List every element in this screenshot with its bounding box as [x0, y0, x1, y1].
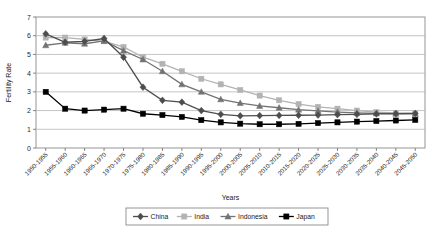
marker-square — [179, 114, 184, 119]
marker-square — [82, 108, 87, 113]
marker-square — [43, 89, 48, 94]
marker-square — [296, 101, 301, 106]
marker-square — [335, 120, 340, 125]
legend-item-indonesia[interactable]: Indonesia — [221, 213, 268, 220]
ytick-label: 2 — [27, 107, 31, 114]
marker-square — [277, 122, 282, 127]
marker-square — [284, 214, 289, 219]
plot-area-border — [36, 17, 425, 148]
marker-square — [218, 82, 223, 87]
marker-square — [393, 118, 398, 123]
legend-label: India — [194, 213, 209, 220]
chart-legend: ChinaIndiaIndonesiaJapan — [126, 208, 328, 225]
ytick-label: 7 — [27, 14, 31, 21]
marker-square — [354, 119, 359, 124]
ytick-label: 3 — [27, 88, 31, 95]
marker-square — [296, 121, 301, 126]
ytick-label: 5 — [27, 51, 31, 58]
marker-square — [315, 121, 320, 126]
marker-square — [238, 87, 243, 92]
marker-square — [182, 214, 187, 219]
marker-square — [218, 120, 223, 125]
ytick-label: 1 — [27, 126, 31, 133]
marker-square — [101, 107, 106, 112]
fertility-rate-line-chart: 012345671950-19551955-19601960-19651965-… — [0, 0, 441, 237]
marker-square — [179, 69, 184, 74]
marker-square — [257, 122, 262, 127]
x-axis-title: Years — [222, 194, 240, 201]
marker-square — [199, 76, 204, 81]
ytick-label: 0 — [27, 145, 31, 152]
chart-canvas: 012345671950-19551955-19601960-19651965-… — [0, 0, 441, 237]
y-axis-title: Fertility Rate — [5, 63, 13, 102]
marker-square — [121, 106, 126, 111]
ytick-label: 4 — [27, 70, 31, 77]
marker-square — [199, 118, 204, 123]
legend-label: Indonesia — [238, 213, 268, 220]
ytick-label: 6 — [27, 32, 31, 39]
marker-square — [140, 111, 145, 116]
marker-square — [277, 98, 282, 103]
legend-label: Japan — [296, 213, 315, 221]
marker-square — [160, 112, 165, 117]
marker-square — [160, 61, 165, 66]
legend-label: China — [151, 213, 169, 220]
marker-square — [374, 118, 379, 123]
marker-square — [413, 117, 418, 122]
marker-square — [238, 121, 243, 126]
marker-square — [63, 106, 68, 111]
marker-square — [257, 93, 262, 98]
